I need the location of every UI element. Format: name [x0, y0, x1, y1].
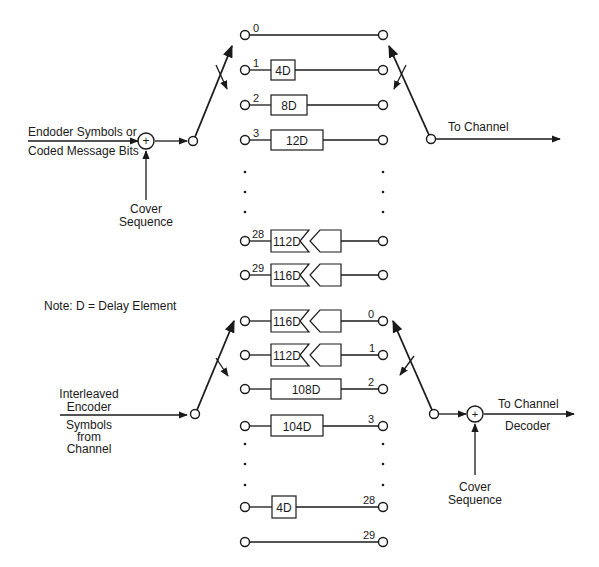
commutator-pivot-in	[189, 137, 198, 146]
svg-text:Sequence: Sequence	[448, 493, 502, 507]
svg-text:29: 29	[363, 529, 375, 541]
output-label: To Channel	[448, 120, 509, 134]
svg-text:104D: 104D	[283, 420, 312, 434]
svg-text:Cover: Cover	[459, 480, 491, 494]
svg-text:Encoder: Encoder	[67, 400, 112, 414]
svg-text:2: 2	[368, 376, 374, 388]
svg-text:116D: 116D	[273, 269, 301, 283]
commutator-pivot-out	[427, 135, 436, 144]
cover-label-line1: Cover	[130, 202, 162, 216]
adder-plus-icon: +	[142, 134, 149, 148]
svg-text:Decoder: Decoder	[505, 419, 550, 433]
note-text: Note: D = Delay Element	[44, 299, 177, 313]
commutator-arm-in	[197, 321, 234, 410]
svg-text:112D: 112D	[273, 235, 301, 249]
svg-text:1: 1	[369, 342, 375, 354]
commutator-arm-in	[195, 46, 232, 137]
svg-text:112D: 112D	[273, 349, 301, 363]
branch-index-0: 0	[253, 22, 259, 34]
svg-text:8D: 8D	[281, 99, 297, 113]
interleaver: Endoder Symbols or Coded Message Bits + …	[28, 22, 560, 286]
commutator-pivot-in	[191, 410, 200, 419]
input-label-line2: Coded Message Bits	[28, 144, 139, 158]
input-label-line1: Endoder Symbols or	[28, 125, 137, 139]
modulo-adder: +	[138, 133, 154, 149]
rotation-arrow-in	[216, 65, 227, 89]
deinterleaver: Interleaved Encoder Symbols from Channel…	[59, 308, 574, 547]
svg-text:0: 0	[368, 308, 374, 320]
svg-text:1: 1	[253, 57, 259, 69]
svg-text:To Channel: To Channel	[498, 397, 559, 411]
svg-text:29: 29	[252, 262, 264, 274]
svg-text:28: 28	[252, 228, 264, 240]
svg-text:116D: 116D	[273, 315, 301, 329]
adder-plus-icon: +	[472, 408, 478, 420]
svg-text:4D: 4D	[275, 64, 291, 78]
commutator-arm-out	[389, 46, 429, 135]
modulo-adder: +	[467, 406, 483, 422]
svg-text:108D: 108D	[292, 383, 321, 397]
svg-text:4D: 4D	[276, 501, 292, 515]
ellipsis-dots	[244, 443, 385, 487]
svg-text:12D: 12D	[286, 134, 308, 148]
svg-text:Channel: Channel	[67, 442, 112, 456]
commutator-arm-out	[393, 321, 432, 410]
svg-text:28: 28	[363, 494, 375, 506]
interleaver-diagram: Endoder Symbols or Coded Message Bits + …	[0, 0, 599, 567]
svg-text:Interleaved: Interleaved	[59, 387, 118, 401]
ellipsis-dots	[244, 171, 385, 214]
cover-label-line2: Sequence	[119, 215, 173, 229]
commutator-pivot-out	[430, 410, 439, 419]
svg-text:3: 3	[368, 413, 374, 425]
svg-text:3: 3	[253, 127, 259, 139]
svg-text:2: 2	[253, 92, 259, 104]
rotation-arrow-in	[216, 358, 228, 376]
